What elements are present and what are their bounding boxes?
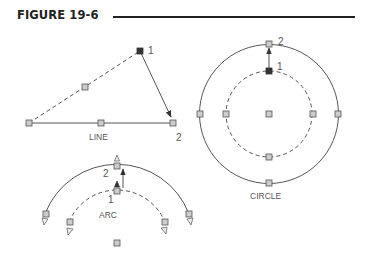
- circle-inner-grip-left[interactable]: [223, 111, 229, 117]
- arc-diagram: 2 1 ARC: [42, 155, 193, 246]
- arc-outer-grip-left[interactable]: [43, 211, 49, 217]
- circle-center-grip[interactable]: [266, 111, 272, 117]
- line-diagram: 1 2 LINE: [26, 45, 182, 143]
- arc-center-grip[interactable]: [114, 240, 120, 246]
- line-grip-hot[interactable]: [137, 48, 143, 54]
- arc-inner-left-triangle-icon: [67, 228, 73, 235]
- circle-point1-label: 1: [277, 61, 283, 72]
- circle-outer-grip-bottom[interactable]: [266, 180, 272, 186]
- circle-inner-grip-bottom[interactable]: [266, 154, 272, 160]
- arc-outer-grip-right[interactable]: [186, 211, 192, 217]
- circle-diagram: 2 1 CIRCLE: [197, 36, 341, 201]
- arc-inner-grip-mid[interactable]: [114, 188, 120, 194]
- arc-inner-grip-right[interactable]: [162, 219, 168, 225]
- circle-caption: CIRCLE: [250, 191, 282, 201]
- circle-outer-grip-left[interactable]: [197, 111, 203, 117]
- line-grip-mid[interactable]: [98, 120, 104, 126]
- line-grip-right-end[interactable]: [170, 120, 176, 126]
- arc-caption: ARC: [99, 210, 117, 220]
- arc-inner-right-triangle-icon: [161, 227, 167, 234]
- grip-stretch-diagram: 1 2 LINE 2 1 CIRCLE: [0, 0, 366, 254]
- line-grip-dashed-mid[interactable]: [82, 84, 88, 90]
- arc-point1-label: 1: [108, 194, 114, 205]
- arc-inner-grip-left[interactable]: [67, 219, 73, 225]
- line-grip-left-end[interactable]: [26, 120, 32, 126]
- arc-original-dashed: [69, 190, 165, 222]
- circle-outer-grip-top[interactable]: [266, 41, 272, 47]
- line-stretch-arrow: [140, 51, 171, 117]
- line-caption: LINE: [89, 132, 108, 142]
- circle-outer-grip-right[interactable]: [335, 111, 341, 117]
- arc-outer-grip-mid[interactable]: [114, 163, 120, 169]
- arc-outer-right-triangle-icon: [187, 218, 193, 225]
- arc-point2-label: 2: [103, 168, 109, 179]
- arc-outer-mid-triangle-icon: [115, 155, 120, 161]
- arc-outer-left-triangle-icon: [42, 218, 48, 225]
- arc-inner-mid-triangle-icon: [115, 181, 120, 187]
- circle-inner-grip-right[interactable]: [310, 111, 316, 117]
- line-point2-label: 2: [176, 132, 182, 143]
- circle-inner-grip-hot[interactable]: [266, 68, 272, 74]
- line-point1-label: 1: [148, 45, 154, 56]
- circle-point2-label: 2: [278, 36, 284, 47]
